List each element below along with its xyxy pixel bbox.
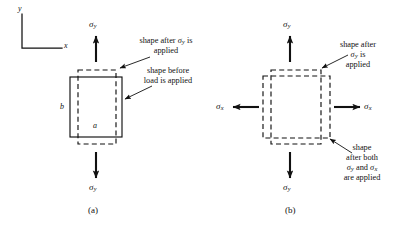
sigma-subscript: x: [368, 104, 371, 111]
annotation-line-2: applied: [154, 46, 178, 55]
panel-b-stress-top-label: σy: [283, 19, 291, 30]
annotation-line-3: applied: [346, 60, 370, 69]
panel-a-caption: (a): [88, 205, 98, 216]
axis-indicator: [22, 14, 62, 48]
annotation-line-1: shape: [353, 143, 372, 152]
sigma-subscript: y: [93, 22, 96, 29]
panel-a-leader-before: [125, 86, 152, 99]
panel-b-stress-bottom-label: σy: [283, 182, 291, 193]
panel-b-annotation-after-sigma-y: shape after σy is applied: [322, 40, 394, 70]
sigma-subscript: y: [287, 185, 290, 192]
panel-a-deformed-rect: [78, 70, 116, 144]
panel-b-both-rect: [263, 76, 330, 138]
annotation-line-1: shape after σy is: [139, 36, 192, 45]
panel-b-stress-right-label: σx: [364, 101, 372, 112]
annotation-line-2: after both: [346, 153, 378, 162]
panel-b-stress-left-label: σx: [216, 101, 224, 112]
annotation-line-1: shape after: [340, 40, 376, 49]
panel-b-caption: (b): [285, 205, 296, 216]
panel-b-annotation-after-both: shape after both σy and σx are applied: [330, 143, 394, 182]
annotation-line-2: σy is: [351, 50, 366, 59]
figure-root: y x σy σy b a shape after σy is applied …: [0, 0, 395, 235]
sigma-subscript: y: [93, 185, 96, 192]
annotation-line-1: shape before: [147, 66, 189, 75]
sigma-subscript: x: [220, 104, 223, 111]
annotation-line-3: σy and σx: [347, 163, 378, 172]
annotation-line-4: are applied: [344, 173, 381, 182]
panel-b-sigmay-rect: [271, 70, 321, 144]
axis-label-x: x: [64, 41, 68, 50]
sigma-subscript: x: [374, 165, 377, 172]
sigma-subscript: y: [287, 22, 290, 29]
panel-a-height-dimension-label: b: [60, 102, 64, 111]
axis-label-y: y: [18, 4, 22, 13]
panel-a-graphics: [70, 36, 152, 178]
annotation-line-2: load is applied: [144, 76, 192, 85]
panel-a-annotation-after-sigma-y: shape after σy is applied: [126, 36, 206, 56]
panel-a-stress-top-label: σy: [89, 19, 97, 30]
panel-a-stress-bottom-label: σy: [89, 182, 97, 193]
panel-a-annotation-before-load: shape before load is applied: [128, 66, 208, 86]
panel-a-width-dimension-label: a: [93, 121, 97, 130]
